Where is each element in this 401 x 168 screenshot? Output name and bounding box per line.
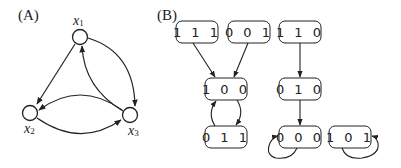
- edge-x1-x3: [88, 38, 135, 106]
- node-x2: x2: [23, 106, 38, 137]
- arrow-100-011: [236, 100, 241, 125]
- svg-text:1 1 1: 1 1 1: [173, 25, 221, 40]
- svg-text:0 0 1: 0 0 1: [225, 25, 273, 40]
- svg-text:x2: x2: [23, 121, 35, 136]
- state-100: 1 0 0: [202, 78, 250, 100]
- panel-a-label: (A): [18, 7, 39, 24]
- edge-x3-x2: [39, 95, 122, 110]
- svg-text:1 0 0: 1 0 0: [202, 82, 250, 97]
- panel-b: (B) 1 1 1 0 0 1 1 1 0 1 0 0 0 1 0 0 1 1: [157, 7, 378, 158]
- state-111: 1 1 1: [173, 21, 221, 43]
- state-000: 0 0 0: [276, 126, 324, 148]
- state-011: 0 1 1: [202, 126, 250, 148]
- svg-text:0 1 1: 0 1 1: [202, 130, 250, 145]
- node-x1: x1: [72, 13, 88, 45]
- svg-text:x3: x3: [127, 123, 139, 138]
- edge-x2-x3: [37, 118, 121, 134]
- state-110: 1 1 0: [276, 21, 324, 43]
- arrow-001-100: [234, 43, 248, 77]
- svg-text:0 1 0: 0 1 0: [276, 82, 324, 97]
- node-x3: x3: [123, 108, 140, 139]
- arrow-111-100: [193, 43, 215, 77]
- panel-a: (A) x1 x2 x3: [18, 7, 139, 138]
- panel-b-label: (B): [157, 7, 177, 24]
- edge-x1-x2: [37, 44, 75, 104]
- state-101: 1 0 1: [326, 126, 374, 148]
- state-010: 0 1 0: [276, 78, 324, 100]
- svg-text:x1: x1: [72, 13, 84, 28]
- edge-x3-x1: [82, 46, 123, 111]
- arrow-011-100: [211, 101, 216, 126]
- svg-text:1 1 0: 1 1 0: [276, 25, 324, 40]
- state-001: 0 0 1: [225, 21, 273, 43]
- svg-text:0 0 0: 0 0 0: [276, 130, 324, 145]
- svg-text:1 0 1: 1 0 1: [326, 130, 374, 145]
- diagram-canvas: (A) x1 x2 x3 (B) 1 1 1 0 0 1: [0, 0, 401, 168]
